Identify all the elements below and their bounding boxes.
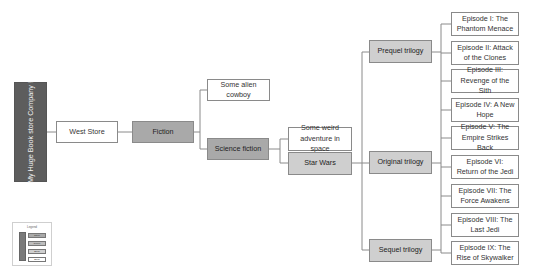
series-node-star-wars[interactable]: Star Wars bbox=[288, 152, 352, 175]
legend-item: Book bbox=[28, 249, 46, 254]
episode-node[interactable]: Episode II: Attack of the Clones bbox=[451, 41, 519, 65]
series-label: Star Wars bbox=[304, 158, 336, 168]
trilogy-label: Prequel trilogy bbox=[378, 46, 424, 56]
trilogy-node-original[interactable]: Original trilogy bbox=[369, 151, 432, 174]
legend-item: Store bbox=[28, 233, 46, 238]
episode-node[interactable]: Episode IV: A New Hope bbox=[451, 98, 519, 122]
legend-title: Legend bbox=[13, 225, 51, 229]
genre-label: Fiction bbox=[152, 127, 173, 137]
episode-label: Episode IV: A New Hope bbox=[455, 100, 515, 121]
episode-node[interactable]: Episode VI: Return of the Jedi bbox=[451, 155, 519, 179]
trilogy-label: Original trilogy bbox=[378, 157, 424, 167]
store-node[interactable]: West Store bbox=[56, 121, 118, 143]
trilogy-label: Sequel trilogy bbox=[379, 245, 423, 255]
episode-label: Episode II: Attack of the Clones bbox=[455, 43, 515, 64]
episode-node[interactable]: Episode III: Revenge of the Sith bbox=[451, 69, 519, 93]
episode-label: Episode I: The Phantom Menace bbox=[455, 14, 515, 35]
trilogy-node-prequel[interactable]: Prequel trilogy bbox=[369, 40, 432, 63]
legend-item: Genre bbox=[28, 241, 46, 246]
legend: Legend Store Genre Book Book bbox=[12, 222, 52, 266]
root-node[interactable]: My Huge Book store Company ! bbox=[14, 82, 47, 182]
genre-label: Science fiction bbox=[215, 144, 261, 154]
episode-label: Episode VIII: The Last Jedi bbox=[455, 215, 515, 236]
trilogy-node-sequel[interactable]: Sequel trilogy bbox=[369, 239, 432, 262]
episode-node[interactable]: Episode VIII: The Last Jedi bbox=[451, 213, 519, 237]
root-label: My Huge Book store Company ! bbox=[25, 81, 35, 183]
book-node-alien-cowboy[interactable]: Some alien cowboy bbox=[207, 79, 270, 101]
episode-node[interactable]: Episode I: The Phantom Menace bbox=[451, 12, 519, 36]
episode-label: Episode VI: Return of the Jedi bbox=[455, 157, 515, 178]
book-label: Some weird adventure in space bbox=[292, 123, 348, 154]
book-label: Some alien cowboy bbox=[211, 80, 266, 101]
episode-label: Episode VII: The Force Awakens bbox=[455, 186, 515, 207]
episode-node[interactable]: Episode IX: The Rise of Skywalker bbox=[451, 241, 519, 265]
genre-node-science-fiction[interactable]: Science fiction bbox=[207, 138, 269, 160]
genre-node-fiction[interactable]: Fiction bbox=[132, 121, 194, 143]
episode-node[interactable]: Episode V: The Empire Strikes Back bbox=[451, 126, 519, 150]
legend-root-swatch bbox=[19, 232, 26, 261]
store-label: West Store bbox=[69, 127, 104, 137]
legend-item: Book bbox=[28, 257, 46, 262]
episode-label: Episode V: The Empire Strikes Back bbox=[455, 122, 515, 153]
episode-label: Episode IX: The Rise of Skywalker bbox=[455, 243, 515, 264]
book-node-weird-adventure[interactable]: Some weird adventure in space bbox=[288, 127, 352, 151]
episode-node[interactable]: Episode VII: The Force Awakens bbox=[451, 184, 519, 208]
episode-label: Episode III: Revenge of the Sith bbox=[455, 65, 515, 96]
